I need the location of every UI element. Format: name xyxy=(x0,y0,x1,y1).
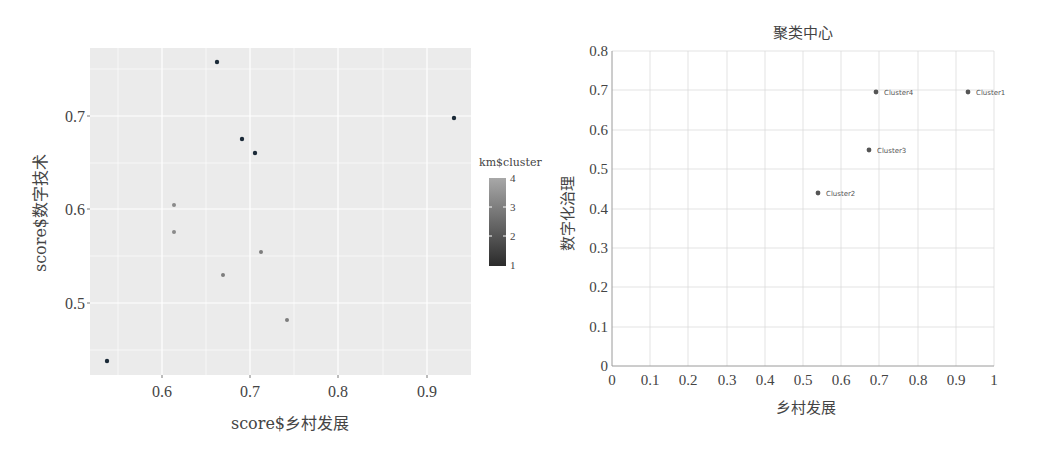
legend-tick: 2 xyxy=(510,230,516,242)
cluster-point xyxy=(816,191,821,196)
right-x-tick-label: 1 xyxy=(990,372,998,388)
right-x-tick-label: 0.6 xyxy=(832,372,851,388)
legend-tick: 4 xyxy=(510,172,516,184)
right-x-tick-label: 0.5 xyxy=(794,372,813,388)
right-y-tick-label: 0.1 xyxy=(589,319,608,335)
right-x-tick-label: 0.4 xyxy=(756,372,775,388)
right-x-tick-label: 0 xyxy=(608,372,616,388)
cluster-point xyxy=(966,90,971,95)
right-x-axis-title: 乡村发展 xyxy=(776,399,836,417)
right-x-tick-label: 0.3 xyxy=(718,372,737,388)
left-y-tick-label: 0.5 xyxy=(65,295,85,312)
data-point xyxy=(285,318,289,322)
right-x-tick-label: 0.2 xyxy=(679,372,698,388)
cluster-label: Cluster3 xyxy=(877,147,906,155)
data-point xyxy=(253,151,257,155)
legend-tick: 1 xyxy=(510,259,516,271)
right-x-tick-label: 0.9 xyxy=(947,372,966,388)
data-point xyxy=(452,116,456,120)
right-grid xyxy=(612,51,994,366)
right-y-tick-label: 0.2 xyxy=(589,279,608,295)
cluster-label: Cluster2 xyxy=(826,190,855,198)
right-x-tick-label: 0.1 xyxy=(641,372,660,388)
right-y-tick-label: 0.5 xyxy=(589,161,608,177)
right-x-tick-label: 0.7 xyxy=(870,372,889,388)
left-y-axis-title: score$数字技术 xyxy=(31,154,50,272)
cluster-legend: km$cluster 4 3 2 1 xyxy=(479,156,542,271)
right-y-tick-label: 0.3 xyxy=(589,240,608,256)
data-point xyxy=(172,203,176,207)
left-x-tick-label: 0.9 xyxy=(417,383,437,400)
left-y-tick-label: 0.6 xyxy=(65,201,85,218)
data-point xyxy=(172,230,176,234)
left-x-axis-title: score$乡村发展 xyxy=(231,414,349,433)
right-chart-title: 聚类中心 xyxy=(773,24,833,42)
left-scatter-chart: 0.6 0.7 0.8 0.9 0.7 0.6 0.5 score$乡村发展 s… xyxy=(31,48,542,433)
legend-tick: 3 xyxy=(510,201,516,213)
data-point xyxy=(215,60,219,64)
left-x-tick-label: 0.7 xyxy=(240,383,260,400)
legend-colorbar xyxy=(489,178,506,266)
data-point xyxy=(221,273,225,277)
left-x-tick-label: 0.6 xyxy=(152,383,172,400)
legend-title: km$cluster xyxy=(479,156,542,169)
cluster-label: Cluster4 xyxy=(884,89,914,97)
left-plot-panel xyxy=(90,48,471,375)
right-x-tick-label: 0.8 xyxy=(909,372,928,388)
right-scatter-chart: 聚类中心 0.8 0.7 xyxy=(559,24,1005,417)
figure: 0.6 0.7 0.8 0.9 0.7 0.6 0.5 score$乡村发展 s… xyxy=(0,0,1037,451)
left-y-tick-label: 0.7 xyxy=(65,108,85,125)
right-y-tick-label: 0 xyxy=(601,358,609,374)
cluster-label: Cluster1 xyxy=(976,89,1005,97)
right-y-tick-label: 0.6 xyxy=(589,122,608,138)
data-point xyxy=(105,359,109,363)
left-x-tick-label: 0.8 xyxy=(328,383,348,400)
right-y-tick-label: 0.7 xyxy=(589,82,608,98)
cluster-point xyxy=(867,148,872,153)
right-y-tick-label: 0.8 xyxy=(589,43,608,59)
data-point xyxy=(259,250,263,254)
right-y-tick-label: 0.4 xyxy=(589,201,608,217)
cluster-centers: Cluster1 Cluster2 Cluster3 Cluster4 xyxy=(816,89,1006,198)
cluster-point xyxy=(874,90,879,95)
data-point xyxy=(240,137,244,141)
right-y-axis-title: 数字化治理 xyxy=(559,176,577,251)
